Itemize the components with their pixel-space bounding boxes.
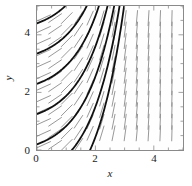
x-tick-label-0: 0 — [28, 152, 44, 164]
slope-field-figure: 0 2 4 0 2 4 x y — [0, 0, 192, 186]
y-tick-label-0: 0 — [16, 144, 30, 156]
y-axis-label: y — [2, 72, 14, 84]
x-tick-label-2: 2 — [87, 152, 103, 164]
x-axis-label: x — [104, 167, 116, 179]
x-tick-label-4: 4 — [146, 152, 162, 164]
plot-area — [36, 5, 184, 151]
y-tick-label-2: 2 — [16, 85, 30, 97]
y-tick-label-4: 4 — [16, 26, 30, 38]
plot-canvas — [37, 6, 183, 150]
